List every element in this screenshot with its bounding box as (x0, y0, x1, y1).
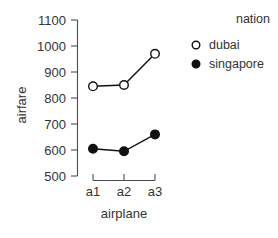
legend-marker-dubai (192, 41, 200, 49)
y-tick-label: 1100 (38, 13, 66, 28)
data-point-singapore-a3 (151, 130, 160, 139)
y-tick-label: 900 (44, 65, 66, 80)
chart-container: airfare 1100 1000 900 800 700 600 500 (0, 0, 278, 238)
y-tick-label: 1000 (37, 39, 66, 54)
y-tick-label: 700 (44, 117, 66, 132)
legend-title: nation (236, 12, 270, 26)
x-axis-title: airplane (101, 206, 147, 221)
legend-label-singapore: singapore (209, 57, 264, 71)
y-tick-label: 800 (44, 91, 66, 106)
y-axis-title: airfare (14, 87, 29, 124)
y-tick-label: 600 (44, 143, 66, 158)
x-tick-label-a1: a1 (86, 184, 100, 199)
data-point-singapore-a1 (89, 144, 98, 153)
x-tick-label-a2: a2 (117, 184, 131, 199)
legend-marker-singapore (192, 60, 200, 68)
x-tick-label-a3: a3 (148, 184, 162, 199)
data-point-dubai-a3 (151, 50, 160, 59)
data-point-singapore-a2 (120, 147, 129, 156)
y-tick-label: 500 (44, 169, 66, 184)
airfare-by-airplane-line-chart: airfare 1100 1000 900 800 700 600 500 (0, 0, 278, 238)
data-point-dubai-a2 (120, 81, 129, 90)
data-point-dubai-a1 (89, 82, 98, 91)
legend-label-dubai: dubai (209, 38, 240, 52)
